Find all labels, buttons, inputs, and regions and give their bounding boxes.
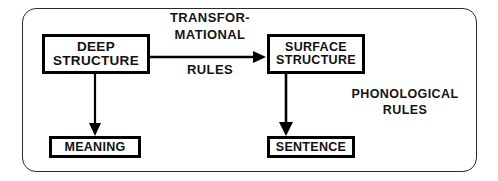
label-transformational-line-3: RULES [150,62,270,79]
diagram-canvas: DEEP STRUCTURE SURFACE STRUCTURE MEANING… [0,0,498,181]
label-transformational-rules: TRANSFOR- MATIONAL RULES [150,10,270,79]
node-surface-structure-line-2: STRUCTURE [276,54,356,67]
node-sentence-label: SENTENCE [276,141,346,154]
node-deep-structure-line-2: STRUCTURE [53,54,139,68]
node-meaning-label: MEANING [64,141,125,154]
label-transformational-line-1: TRANSFOR- [150,10,270,27]
node-sentence: SENTENCE [267,136,355,158]
label-phonological-line-1: PHONOLOGICAL [335,86,475,102]
node-deep-structure: DEEP STRUCTURE [42,34,150,74]
node-surface-structure: SURFACE STRUCTURE [267,34,365,74]
label-phonological-line-2: RULES [335,102,475,118]
label-transformational-line-2: MATIONAL [150,27,270,44]
node-deep-structure-line-1: DEEP [77,40,115,54]
label-phonological-rules: PHONOLOGICAL RULES [335,86,475,118]
node-meaning: MEANING [49,136,141,158]
